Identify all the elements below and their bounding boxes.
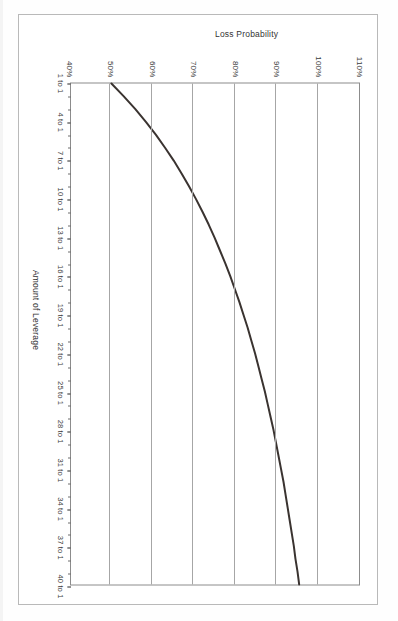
- x-axis-tick: [68, 418, 71, 419]
- x-axis-tick-major: [67, 509, 71, 510]
- x-axis-tick-major: [67, 431, 71, 432]
- x-axis-tick-label: 25 to 1: [56, 381, 65, 405]
- gridline-horizontal: [151, 83, 152, 584]
- x-axis-tick-major: [67, 238, 71, 239]
- x-axis-tick: [68, 173, 71, 174]
- x-axis-tick-major: [67, 315, 71, 316]
- y-axis-tick-label: 100%: [313, 56, 322, 77]
- x-axis-tick-label: 31 to 1: [56, 458, 65, 482]
- x-axis-tick-label: 22 to 1: [56, 342, 65, 366]
- x-axis-tick-label: 4 to 1: [56, 112, 65, 132]
- x-axis-tick-major: [67, 586, 71, 587]
- scanned-page: Loss Probability 110%100%90%80%70%60%50%…: [0, 0, 398, 621]
- x-axis-tick: [68, 225, 71, 226]
- y-axis-tick-label: 40%: [65, 60, 74, 77]
- x-axis-tick: [68, 560, 71, 561]
- x-axis-tick: [68, 483, 71, 484]
- rotated-chart-wrapper: Loss Probability 110%100%90%80%70%60%50%…: [18, 14, 378, 605]
- x-axis-tick: [68, 251, 71, 252]
- x-axis-tick-label: 1 to 1: [56, 73, 65, 93]
- y-axis-tick-label: 50%: [106, 60, 115, 77]
- x-axis-tick: [68, 289, 71, 290]
- x-axis-tick-major: [67, 83, 71, 84]
- x-axis-tick-label: 19 to 1: [56, 303, 65, 327]
- x-axis-tick-label: 13 to 1: [56, 226, 65, 250]
- x-axis-tick-major: [67, 470, 71, 471]
- x-axis-tick: [68, 444, 71, 445]
- x-axis-tick-label: 37 to 1: [56, 535, 65, 559]
- x-axis-tick-label: 7 to 1: [56, 151, 65, 171]
- gridline-horizontal: [275, 83, 276, 584]
- x-axis-tick: [68, 109, 71, 110]
- x-axis-tick: [68, 328, 71, 329]
- x-axis-tick: [68, 264, 71, 265]
- x-axis-tick-major: [67, 122, 71, 123]
- x-axis-tick-major: [67, 160, 71, 161]
- x-axis-tick-major: [67, 276, 71, 277]
- gridline-horizontal: [109, 83, 110, 584]
- x-axis-title: Amount of Leverage: [31, 14, 41, 605]
- y-axis-title: Loss Probability: [215, 28, 278, 38]
- gridline-horizontal: [317, 83, 318, 584]
- chart: Loss Probability 110%100%90%80%70%60%50%…: [18, 14, 378, 605]
- plot-area: 110%100%90%80%70%60%50%40%1 to 14 to 17 …: [70, 82, 360, 585]
- scan-edge-artifact: [0, 0, 3, 621]
- x-axis-tick-label: 40 to 1: [56, 574, 65, 598]
- x-axis-tick: [68, 147, 71, 148]
- gridline-horizontal: [192, 83, 193, 584]
- chart-rotation-container: Loss Probability 110%100%90%80%70%60%50%…: [18, 14, 378, 605]
- x-axis-tick-label: 16 to 1: [56, 264, 65, 288]
- x-axis-tick: [68, 367, 71, 368]
- x-axis-tick: [68, 457, 71, 458]
- y-axis-tick-label: 80%: [230, 60, 239, 77]
- x-axis-tick-label: 34 to 1: [56, 497, 65, 521]
- x-axis-tick: [68, 522, 71, 523]
- y-axis-tick-label: 110%: [355, 56, 364, 77]
- gridline-horizontal: [234, 83, 235, 584]
- x-axis-tick: [68, 534, 71, 535]
- x-axis-tick-major: [67, 199, 71, 200]
- x-axis-tick: [68, 96, 71, 97]
- y-axis-tick-label: 60%: [147, 60, 156, 77]
- y-axis-tick-label: 90%: [272, 60, 281, 77]
- x-axis-tick: [68, 302, 71, 303]
- x-axis-tick: [68, 496, 71, 497]
- x-axis-tick: [68, 341, 71, 342]
- y-axis-tick-label: 70%: [189, 60, 198, 77]
- x-axis-tick-major: [67, 547, 71, 548]
- x-axis-tick: [68, 405, 71, 406]
- x-axis-tick: [68, 573, 71, 574]
- x-axis-tick: [68, 186, 71, 187]
- x-axis-tick-major: [67, 354, 71, 355]
- x-axis-tick: [68, 380, 71, 381]
- x-axis-tick: [68, 135, 71, 136]
- x-axis-tick-major: [67, 393, 71, 394]
- x-axis-tick-label: 28 to 1: [56, 419, 65, 443]
- x-axis-tick: [68, 212, 71, 213]
- x-axis-tick-label: 10 to 1: [56, 187, 65, 211]
